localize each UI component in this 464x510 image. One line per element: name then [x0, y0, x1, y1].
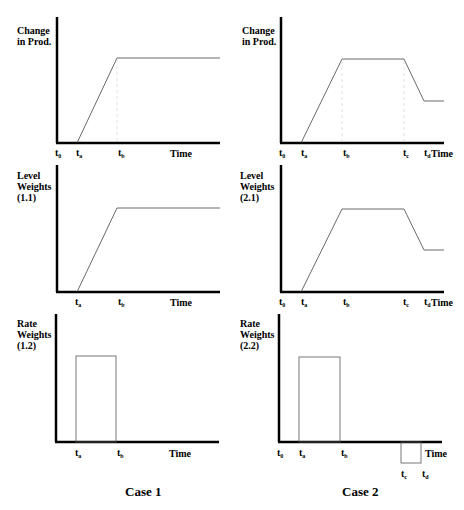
ylabel-case1-level: Level Weights (1.1) — [17, 170, 51, 203]
tick-tb: tb — [118, 296, 125, 311]
tick-tb: tb — [343, 147, 350, 162]
tick-ta: ta — [75, 447, 81, 462]
ylabel-line: in Prod. — [242, 36, 276, 47]
ylabel-line: (2.1) — [240, 192, 274, 203]
xlabel-time: Time — [431, 297, 453, 308]
chart-case1-rate-weights — [55, 314, 219, 442]
diagram-canvas — [0, 0, 464, 510]
tick-t0: t0 — [55, 147, 61, 162]
tick-td: td — [424, 147, 431, 162]
ylabel-case2-rate: Rate Weights (2.2) — [240, 318, 274, 351]
tick-tb: tb — [117, 447, 124, 462]
tick-tb: tb — [341, 447, 348, 462]
tick-tc: tc — [403, 296, 409, 311]
caption-case-2: Case 2 — [342, 484, 378, 500]
xlabel-time: Time — [431, 148, 453, 159]
xlabel-time: Time — [170, 148, 192, 159]
ylabel-line: Weights — [240, 181, 274, 192]
ylabel-line: in Prod. — [17, 36, 51, 47]
ylabel-line: Weights — [17, 181, 51, 192]
ylabel-line: (2.2) — [240, 340, 274, 351]
tick-tc: tc — [403, 147, 409, 162]
ylabel-line: Level — [17, 170, 51, 181]
tick-ta: ta — [76, 147, 82, 162]
tick-ta: ta — [301, 296, 307, 311]
tick-t0: t0 — [279, 296, 285, 311]
tick-tb: tb — [343, 296, 350, 311]
ylabel-line: Rate — [17, 318, 51, 329]
ylabel-case1-change: Change in Prod. — [17, 25, 51, 47]
tick-ta: ta — [299, 447, 305, 462]
ylabel-line: Change — [17, 25, 51, 36]
ylabel-line: Weights — [17, 329, 51, 340]
ylabel-case2-change: Change in Prod. — [242, 25, 276, 47]
ylabel-case2-level: Level Weights (2.1) — [240, 170, 274, 203]
tick-t0: t0 — [279, 147, 285, 162]
tick-tb: tb — [118, 147, 125, 162]
tick-td: td — [422, 468, 429, 483]
xlabel-time: Time — [425, 448, 447, 459]
ylabel-line: (1.2) — [17, 340, 51, 351]
tick-ta: ta — [75, 296, 81, 311]
ylabel-line: Rate — [240, 318, 274, 329]
xlabel-time: Time — [170, 297, 192, 308]
chart-case2-level-weights — [280, 165, 444, 292]
xlabel-time: Time — [169, 448, 191, 459]
tick-td: td — [424, 296, 431, 311]
chart-case2-rate-weights — [278, 314, 442, 463]
ylabel-line: Level — [240, 170, 274, 181]
tick-ta: ta — [301, 147, 307, 162]
chart-case2-change-in-prod — [280, 17, 444, 143]
chart-case1-level-weights — [56, 165, 220, 292]
ylabel-line: Weights — [240, 329, 274, 340]
ylabel-case1-rate: Rate Weights (1.2) — [17, 318, 51, 351]
tick-tc: tc — [401, 468, 407, 483]
caption-case-1: Case 1 — [125, 484, 161, 500]
tick-t0: t0 — [277, 447, 283, 462]
ylabel-line: Change — [242, 25, 276, 36]
ylabel-line: (1.1) — [17, 192, 51, 203]
chart-case1-change-in-prod — [56, 17, 220, 143]
